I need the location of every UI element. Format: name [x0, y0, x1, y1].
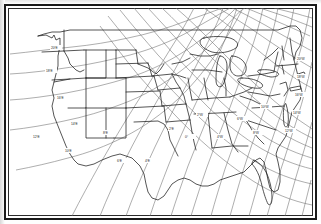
isoline-label-text: 12°W	[285, 129, 294, 133]
isoline-label-text: 16°E	[57, 96, 65, 100]
border-il-in	[188, 78, 192, 100]
isoline-38W	[274, 8, 312, 18]
isoline-label-central-1: 10°E	[64, 148, 76, 153]
isoline-label-central-5: 2°E	[168, 126, 180, 131]
isoline-8W	[267, 62, 312, 216]
isoline-10E	[72, 8, 194, 216]
border-ne-ks	[126, 91, 160, 92]
border-id-mt	[64, 51, 84, 72]
border-nc-sc	[246, 120, 276, 130]
isoline-label-east-1: 2°W	[196, 112, 208, 117]
border-fl-ga-al	[212, 146, 248, 148]
isoline-label-east-4: 8°W	[252, 130, 264, 135]
isoline-label-west-2: 18°E	[45, 68, 57, 73]
isoline-label-east-2: 4°W	[216, 134, 228, 139]
isoline-12W	[302, 180, 311, 216]
isoline-label-text: 14°W	[293, 111, 302, 115]
isoline-label-west-5: 12°E	[32, 134, 44, 139]
great-lakes-superior	[200, 37, 238, 53]
border-mi-upper	[190, 54, 218, 56]
border-mi-oh-in	[192, 70, 222, 72]
border-sd-ne	[116, 76, 154, 78]
isoline-label-east-8: 16°W	[294, 92, 306, 97]
us-national-outline	[38, 26, 302, 200]
border-wa-or	[42, 50, 84, 52]
isoline-label-text: 16°W	[295, 93, 304, 97]
isoline-label-central-4: 4°E	[144, 158, 156, 163]
border-ms-al	[208, 114, 212, 148]
scanned-map-page: 20°E 18°E 16°E 14°E 12°E 10°E	[0, 0, 321, 224]
isoline-label-text: 10°E	[65, 149, 73, 153]
border-tx-la	[168, 130, 178, 156]
isoline-label-text: 18°E	[46, 69, 54, 73]
isoline-label-text: 4°W	[217, 135, 224, 139]
isoline-label-east-5: 10°W	[260, 104, 272, 109]
border-nj	[280, 82, 288, 96]
isoline-label-text: 14°E	[71, 122, 79, 126]
border-ky-tn	[192, 97, 230, 100]
chesapeake-bay	[283, 104, 288, 127]
us-state-boundaries	[38, 26, 306, 205]
us-isogonic-map: 20°E 18°E 16°E 14°E 12°E 10°E	[8, 8, 313, 216]
isoline-label-west-4: 14°E	[70, 121, 82, 126]
isoline-label-text: 6°W	[237, 117, 244, 121]
isoline-22W	[120, 10, 312, 169]
isoline-labels: 20°E 18°E 16°E 14°E 12°E 10°E	[32, 45, 308, 163]
isoline-label-east-10: 20°W	[296, 56, 308, 61]
border-ks-ok	[126, 106, 164, 108]
border-wv-va	[240, 96, 260, 104]
isoline-label-text: 8°W	[253, 131, 260, 135]
border-ny-vt-ma	[274, 52, 278, 72]
isoline-label-east-3: 6°W	[236, 116, 248, 121]
border-ia-il	[172, 74, 180, 88]
isoline-label-central-2: 8°E	[102, 130, 114, 135]
long-island	[290, 86, 301, 91]
isoline-label-text: 20°W	[297, 57, 306, 61]
isoline-label-text: 12°E	[33, 135, 41, 139]
isoline-label-central-3: 6°E	[116, 158, 128, 163]
isoline-6E	[126, 8, 223, 216]
border-nd-sd	[116, 63, 148, 64]
border-pa-ny	[248, 72, 274, 76]
isoline-label-west-1: 20°E	[50, 45, 62, 50]
isoline-label-text: 20°E	[51, 46, 59, 50]
isoline-label-text: 18°W	[297, 75, 306, 79]
isoline-label-east-6: 12°W	[284, 128, 296, 133]
isoline-label-east-7: 14°W	[292, 110, 304, 115]
border-ar-la	[166, 120, 190, 122]
border-ia-mo	[158, 88, 180, 90]
border-ut-az	[68, 78, 86, 108]
isoline-label-text: 10°W	[261, 105, 270, 109]
isoline-label-east-9: 18°W	[296, 74, 308, 79]
border-vt-nh	[282, 46, 284, 60]
border-ky-va	[230, 88, 252, 97]
isoline-label-west-3: 16°E	[56, 95, 68, 100]
isoline-label-text: 2°W	[197, 113, 204, 117]
isoline-label-central-6: 0°	[184, 134, 196, 139]
border-ok-ar	[164, 106, 166, 122]
